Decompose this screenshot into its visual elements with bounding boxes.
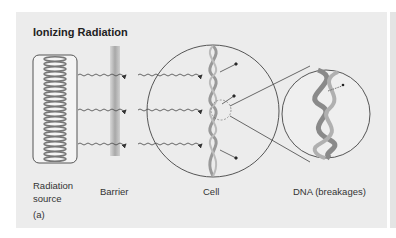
source-label-line1: Radiation [33, 180, 73, 192]
dna-breakage-icon [282, 70, 370, 158]
barrier-label: Barrier [100, 186, 129, 198]
dna-label: DNA (breakages) [293, 186, 366, 198]
source-label-line2: source [33, 193, 62, 205]
radiation-rays [78, 74, 202, 145]
panel-label: (a) [33, 209, 45, 221]
radiation-source-icon [33, 55, 77, 163]
cell-label: Cell [203, 186, 219, 198]
barrier-icon [110, 46, 120, 156]
